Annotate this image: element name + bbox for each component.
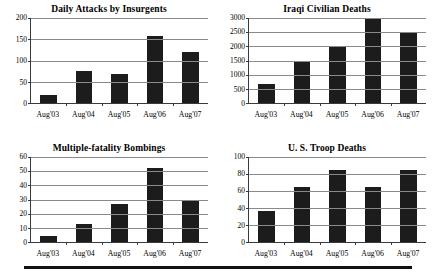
y-tick-label: 2500	[230, 29, 245, 37]
y-tick-label: 0	[23, 239, 27, 247]
x-tick-label: Aug'03	[248, 110, 284, 119]
bar[interactable]	[182, 200, 199, 243]
bar[interactable]	[258, 211, 275, 242]
gridline	[31, 61, 208, 62]
chart-figure: Daily Attacks by Insurgents 050100150200…	[0, 0, 436, 277]
x-tick-label: Aug'06	[137, 110, 173, 119]
x-tick-label: Aug'06	[137, 249, 173, 258]
y-tick-label: 20	[238, 222, 246, 230]
bar[interactable]	[294, 61, 311, 103]
y-tick-label: 30	[20, 196, 28, 204]
plot-area-wrapper: 050010001500200025003000	[248, 18, 426, 104]
bar[interactable]	[76, 224, 93, 242]
chart-title: Multiple-fatality Bombings	[0, 139, 218, 157]
y-tick-label: 100	[16, 57, 27, 65]
gridline	[31, 39, 208, 40]
x-tick-label: Aug'07	[390, 110, 426, 119]
bar[interactable]	[294, 187, 311, 242]
y-tick-label: 80	[238, 170, 246, 178]
gridline	[249, 46, 426, 47]
x-tick-label: Aug'05	[319, 110, 355, 119]
bar-slot	[355, 157, 390, 242]
bar[interactable]	[111, 204, 128, 242]
y-tick-label: 200	[16, 14, 27, 22]
x-tick-label: Aug'03	[248, 249, 284, 258]
x-tick-label: Aug'07	[172, 110, 208, 119]
bar-slot	[391, 157, 426, 242]
chart-multiple-fatality-bombings: Multiple-fatality Bombings 0102030405060…	[0, 139, 218, 259]
x-tick-label: Aug'03	[30, 110, 66, 119]
x-tick-label: Aug'04	[284, 110, 320, 119]
bar[interactable]	[147, 36, 164, 103]
y-tick-label: 0	[241, 239, 245, 247]
x-axis-labels: Aug'03Aug'04Aug'05Aug'06Aug'07	[30, 243, 208, 258]
y-tick-label: 50	[20, 168, 28, 176]
gridline	[31, 214, 208, 215]
gridline	[249, 208, 426, 209]
gridline	[31, 185, 208, 186]
bar[interactable]	[329, 170, 346, 242]
plot-area-wrapper: 020406080100	[248, 157, 426, 243]
x-tick-label: Aug'04	[66, 110, 102, 119]
bar[interactable]	[40, 95, 57, 104]
y-tick-label: 500	[234, 86, 245, 94]
chart-title: U. S. Troop Deaths	[218, 139, 436, 157]
gridline	[249, 174, 426, 175]
y-tick-label: 2000	[230, 43, 245, 51]
x-axis-labels: Aug'03Aug'04Aug'05Aug'06Aug'07	[30, 104, 208, 119]
bar[interactable]	[400, 170, 417, 242]
x-tick-label: Aug'07	[390, 249, 426, 258]
y-tick-label: 20	[20, 211, 28, 219]
bar[interactable]	[76, 71, 93, 103]
y-tick-label: 40	[20, 182, 28, 190]
chart-title: Daily Attacks by Insurgents	[0, 0, 218, 18]
bar-slot	[249, 157, 284, 242]
gridline	[31, 200, 208, 201]
bar[interactable]	[258, 84, 275, 103]
plot-area	[248, 157, 426, 243]
bar[interactable]	[40, 236, 57, 242]
y-axis-labels: 050010001500200025003000	[218, 18, 245, 104]
gridline	[249, 191, 426, 192]
x-tick-label: Aug'06	[355, 249, 391, 258]
gridline	[249, 32, 426, 33]
x-tick-label: Aug'07	[172, 249, 208, 258]
bar[interactable]	[400, 33, 417, 103]
bar[interactable]	[147, 168, 164, 242]
y-tick-label: 0	[241, 100, 245, 108]
x-axis-labels: Aug'03Aug'04Aug'05Aug'06Aug'07	[248, 243, 426, 258]
chart-title: Iraqi Civilian Deaths	[218, 0, 436, 18]
y-axis-labels: 050100150200	[0, 18, 27, 104]
x-tick-label: Aug'05	[101, 110, 137, 119]
bar-slot	[320, 157, 355, 242]
plot-area-wrapper: 0102030405060	[30, 157, 208, 243]
x-tick-label: Aug'05	[319, 249, 355, 258]
plot-area-wrapper: 050100150200	[30, 18, 208, 104]
x-tick-label: Aug'06	[355, 110, 391, 119]
y-tick-label: 10	[20, 225, 28, 233]
gridline	[249, 75, 426, 76]
x-tick-label: Aug'05	[101, 249, 137, 258]
x-axis-labels: Aug'03Aug'04Aug'05Aug'06Aug'07	[248, 104, 426, 119]
chart-daily-attacks: Daily Attacks by Insurgents 050100150200…	[0, 0, 218, 139]
x-tick-label: Aug'04	[284, 249, 320, 258]
gridline	[31, 228, 208, 229]
y-tick-label: 1000	[230, 72, 245, 80]
gridline	[31, 82, 208, 83]
bar[interactable]	[111, 74, 128, 103]
bar-series	[249, 157, 426, 242]
y-tick-label: 1500	[230, 57, 245, 65]
y-tick-label: 3000	[230, 14, 245, 22]
gridline	[249, 61, 426, 62]
plot-area	[30, 18, 208, 104]
y-tick-label: 50	[20, 79, 28, 87]
bar[interactable]	[365, 187, 382, 242]
y-tick-label: 0	[23, 100, 27, 108]
bar-slot	[284, 157, 319, 242]
gridline	[249, 89, 426, 90]
y-tick-label: 60	[20, 153, 28, 161]
bottom-divider-rule	[24, 266, 412, 269]
x-tick-label: Aug'03	[30, 249, 66, 258]
plot-area	[248, 18, 426, 104]
chart-us-troop-deaths: U. S. Troop Deaths 020406080100 Aug'03Au…	[218, 139, 436, 259]
